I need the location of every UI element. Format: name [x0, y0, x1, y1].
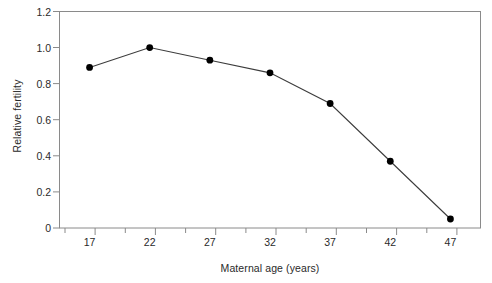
x-tick-label: 47	[430, 236, 470, 248]
y-axis-title: Relative fertility	[11, 36, 23, 196]
fertility-vs-maternal-age-chart: 00.20.40.60.81.01.2 17222732374247 Relat…	[0, 0, 492, 283]
x-tick-label: 22	[130, 236, 170, 248]
caption-fragment	[0, 277, 492, 283]
x-tick-label: 27	[190, 236, 230, 248]
x-tick-label: 32	[250, 236, 290, 248]
x-tick-label: 17	[70, 236, 110, 248]
x-axis-title: Maternal age (years)	[59, 262, 481, 274]
x-tick-label: 37	[310, 236, 350, 248]
x-axis-tick-labels: 17222732374247	[0, 0, 492, 283]
x-tick-label: 42	[370, 236, 410, 248]
